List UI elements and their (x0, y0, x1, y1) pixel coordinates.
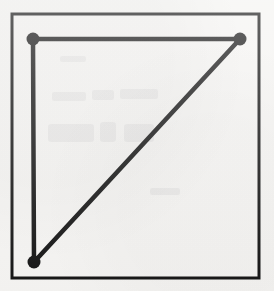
triangle-figure-svg: Right triangle with three marked vertice… (0, 0, 274, 291)
vertex-marker-top-left (27, 33, 40, 46)
figure-canvas: Right triangle with three marked vertice… (0, 0, 274, 291)
vertex-marker-top-right (234, 33, 247, 46)
vertex-marker-bottom-left (28, 256, 41, 269)
